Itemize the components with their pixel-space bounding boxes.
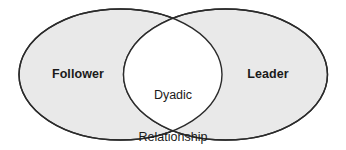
- venn-label-follower: Follower: [32, 67, 124, 81]
- venn-diagram: Follower Leader Dyadic Relationship: [0, 0, 346, 150]
- venn-label-intersection-line2: Relationship: [128, 130, 218, 144]
- venn-label-intersection-line1: Dyadic: [128, 88, 218, 102]
- venn-label-leader: Leader: [222, 67, 314, 81]
- venn-label-intersection: Dyadic Relationship: [128, 60, 218, 150]
